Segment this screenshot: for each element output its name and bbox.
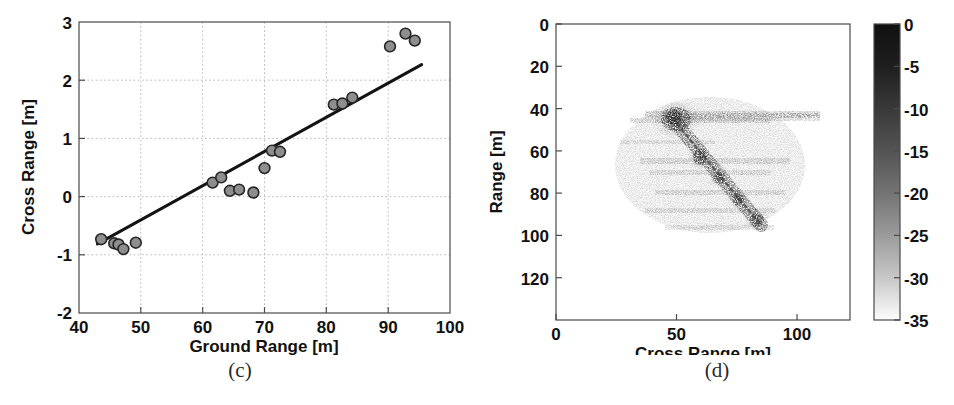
fit-line-c xyxy=(98,65,422,244)
ytick-label: 20 xyxy=(530,58,549,77)
panel-caption-c: (c) xyxy=(0,358,480,383)
colorbar-tick-label: -35 xyxy=(904,312,929,331)
data-point xyxy=(385,41,396,52)
blob-3 xyxy=(707,167,731,189)
ytick-label: 1 xyxy=(63,130,72,149)
panel-c-svg: 40 50 60 70 80 90 100 3 2 1 0 -1 -2 Grou… xyxy=(0,0,480,355)
figure-container: 40 50 60 70 80 90 100 3 2 1 0 -1 -2 Grou… xyxy=(0,0,954,405)
panel-c-scatter: 40 50 60 70 80 90 100 3 2 1 0 -1 -2 Grou… xyxy=(0,0,480,405)
panel-d-radar-image: 0 50 100 0 20 40 60 80 100 120 Cross Ran… xyxy=(480,0,954,405)
ytick-label: 60 xyxy=(530,143,549,162)
blob-5 xyxy=(744,207,770,233)
y-axis-title-d: Range [m] xyxy=(487,130,506,213)
data-point xyxy=(409,35,420,46)
xtick-label: 40 xyxy=(70,318,89,337)
ytick-label: 80 xyxy=(530,185,549,204)
colorbar-gradient xyxy=(874,24,900,320)
blob-2 xyxy=(687,143,713,171)
ytick-labels-c: 3 2 1 0 -1 -2 xyxy=(57,14,72,323)
xtick-label: 60 xyxy=(193,318,212,337)
data-point xyxy=(275,146,286,157)
y-axis-title-c: Cross Range [m] xyxy=(19,99,38,235)
colorbar: 0 -5 -10 -15 -20 -25 -30 -35 xyxy=(874,16,929,331)
panel-caption-d: (d) xyxy=(480,358,954,383)
data-point xyxy=(347,92,358,103)
data-point xyxy=(337,98,348,109)
ytick-label: 100 xyxy=(521,227,549,246)
panel-d-svg: 0 50 100 0 20 40 60 80 100 120 Cross Ran… xyxy=(480,0,954,355)
colorbar-tick-label: -20 xyxy=(904,185,929,204)
ytick-label: 40 xyxy=(530,101,549,120)
colorbar-tick-labels: 0 -5 -10 -15 -20 -25 -30 -35 xyxy=(904,16,929,331)
colorbar-tick-label: -5 xyxy=(904,58,919,77)
colorbar-tick-label: -15 xyxy=(904,143,929,162)
blob-4 xyxy=(727,188,749,210)
data-point xyxy=(130,237,141,248)
xtick-label: 70 xyxy=(255,318,274,337)
xtick-label: 0 xyxy=(551,325,560,344)
data-point xyxy=(259,163,270,174)
data-point xyxy=(400,28,411,39)
ytick-label: -1 xyxy=(57,246,72,265)
xtick-labels-d: 0 50 100 xyxy=(551,325,811,344)
colorbar-tick-label: -30 xyxy=(904,270,929,289)
x-axis-title-d: Cross Range [m] xyxy=(635,344,771,355)
data-point xyxy=(118,244,129,255)
ytick-label: -2 xyxy=(57,304,72,323)
xtick-label: 100 xyxy=(436,318,464,337)
xtick-label: 80 xyxy=(317,318,336,337)
ytick-label: 2 xyxy=(63,72,72,91)
xtick-label: 50 xyxy=(131,318,150,337)
ytick-label: 120 xyxy=(521,270,549,289)
data-point xyxy=(216,172,227,183)
colorbar-tick-label: -10 xyxy=(904,101,929,120)
ytick-label: 0 xyxy=(63,188,72,207)
xtick-labels-c: 40 50 60 70 80 90 100 xyxy=(70,318,465,337)
data-point xyxy=(248,187,259,198)
xtick-label: 50 xyxy=(667,325,686,344)
scatter-points-c xyxy=(96,28,420,254)
ytick-label: 0 xyxy=(540,16,549,35)
xtick-label: 100 xyxy=(783,325,811,344)
ytick-label: 3 xyxy=(63,14,72,33)
data-point xyxy=(234,184,245,195)
x-axis-title-c: Ground Range [m] xyxy=(189,337,338,355)
colorbar-tick-label: -25 xyxy=(904,227,929,246)
colorbar-tick-label: 0 xyxy=(904,16,913,35)
xtick-label: 90 xyxy=(379,318,398,337)
data-point xyxy=(96,234,107,245)
ytick-labels-d: 0 20 40 60 80 100 120 xyxy=(521,16,549,289)
